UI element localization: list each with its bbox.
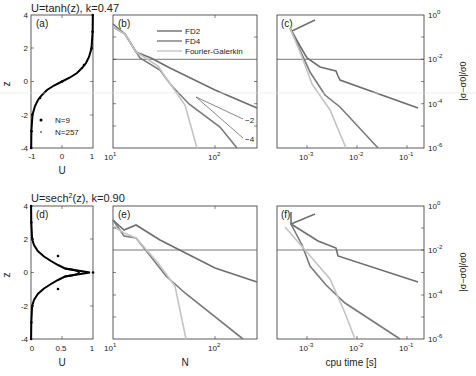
- svg-text:10-4: 10-4: [428, 289, 443, 300]
- panel-a: U=tanh(z), k=0.47 (a) N=9 N=257 4 2 0 -2…: [1, 2, 119, 176]
- line-fd4-f: [291, 224, 400, 339]
- svg-text:10-3: 10-3: [299, 342, 314, 353]
- svg-text:10-2: 10-2: [349, 151, 364, 162]
- svg-text:10-2: 10-2: [349, 342, 364, 353]
- svg-text:-4: -4: [21, 335, 29, 344]
- yticks-f: 100 10-2 10-4 10-6: [428, 200, 443, 344]
- line-fd2-c: [290, 28, 418, 108]
- xticks-f: 10-3 10-2 10-1: [299, 342, 414, 353]
- line-fd2-e: [113, 220, 257, 282]
- panel-label-b: (b): [118, 18, 130, 29]
- axes-f-frame: [277, 206, 424, 339]
- svg-text:-1: -1: [28, 152, 36, 161]
- svg-text:-2: -2: [21, 111, 29, 120]
- axes-c-frame: [277, 15, 424, 148]
- svg-text:10-2: 10-2: [428, 53, 443, 64]
- xticks-c: 10-3 10-2 10-1: [299, 151, 414, 162]
- legend-fd2: FD2: [185, 27, 201, 36]
- svg-text:0: 0: [30, 344, 35, 353]
- svg-text:10-6: 10-6: [428, 142, 443, 153]
- xlabel-a: U: [58, 165, 65, 176]
- ticks-c: [307, 37, 424, 148]
- yticks-a: 4 2 0 -2 -4: [21, 11, 29, 153]
- legend-fd4: FD4: [185, 37, 201, 46]
- slope-label-m2: −2: [245, 116, 255, 125]
- svg-text:10-3: 10-3: [299, 151, 314, 162]
- svg-text:102: 102: [208, 151, 221, 162]
- yticks-c: 100 10-2 10-4 10-6: [428, 9, 443, 153]
- ylabel-f: |σ−σ0|/σ0: [458, 252, 468, 291]
- ylabel-a: z: [1, 82, 12, 87]
- svg-text:-4: -4: [21, 144, 29, 153]
- legend-marker-n257: [40, 131, 42, 133]
- panel-c: (c) 10-3 10-2 10-1 100 10-2 10-4 10-6 |σ…: [277, 9, 468, 162]
- xlabel-e: N: [181, 357, 188, 368]
- panel-label-d: (d): [36, 209, 48, 220]
- xlabel-d: U: [58, 357, 65, 368]
- panel-b: (b) −2 −4 FD2 FD4 Fourier-Galerkin 101 1…: [104, 15, 257, 162]
- ylabel-c: |σ−σ0|/σ0: [458, 61, 468, 100]
- svg-text:10-2: 10-2: [428, 244, 443, 255]
- svg-text:102: 102: [208, 342, 221, 353]
- panel-label-e: (e): [118, 209, 130, 220]
- xticks-e: 101 102: [104, 342, 221, 353]
- xticks-d: 0 0.5 1: [30, 344, 95, 353]
- svg-text:0.5: 0.5: [55, 344, 67, 353]
- svg-text:10-1: 10-1: [399, 151, 414, 162]
- legend-fg: Fourier-Galerkin: [185, 47, 243, 56]
- legend-n257: N=257: [55, 128, 79, 137]
- svg-text:100: 100: [428, 9, 441, 20]
- svg-text:10-6: 10-6: [428, 333, 443, 344]
- svg-text:0: 0: [24, 268, 29, 277]
- slope-line-m2: [196, 97, 243, 119]
- svg-text:101: 101: [104, 342, 117, 353]
- panel-label-c: (c): [281, 18, 293, 29]
- line-fg-e: [113, 226, 186, 339]
- svg-text:101: 101: [104, 151, 117, 162]
- xlabel-f: cpu time [s]: [325, 357, 376, 368]
- line-fd2-c-start: [292, 20, 315, 31]
- xticks-b: 101 102: [104, 151, 221, 162]
- profile-curve-sech2: [31, 206, 90, 339]
- title-bottom: U=sech2(z), k=0.90: [31, 192, 125, 204]
- line-fd2-f-start: [291, 214, 315, 224]
- panel-label-f: (f): [281, 209, 290, 220]
- title-top: U=tanh(z), k=0.47: [31, 2, 119, 14]
- line-fg-f: [285, 227, 355, 339]
- panel-f: (f) 10-3 10-2 10-1 100 10-2 10-4 10-6 cp…: [277, 200, 468, 368]
- svg-text:1: 1: [90, 152, 95, 161]
- yticks-d: 4 2 0 -2 -4: [21, 202, 29, 344]
- svg-text:0: 0: [60, 152, 65, 161]
- svg-text:10-4: 10-4: [428, 98, 443, 109]
- xticks-a: -1 0 1: [28, 152, 94, 161]
- svg-text:4: 4: [24, 11, 29, 20]
- figure: U=tanh(z), k=0.47 (a) N=9 N=257 4 2 0 -2…: [0, 0, 476, 376]
- svg-text:0: 0: [24, 77, 29, 86]
- svg-text:1: 1: [90, 344, 95, 353]
- slope-line-m4: [196, 97, 243, 138]
- svg-text:2: 2: [24, 235, 29, 244]
- ylabel-d: z: [1, 273, 12, 278]
- svg-text:2: 2: [24, 44, 29, 53]
- panel-e: (e) 101 102 N: [104, 206, 257, 368]
- legend-n9: N=9: [55, 116, 70, 125]
- panel-d: U=sech2(z), k=0.90 (d) 4 2 0 -2 -4 0 0.5…: [1, 192, 125, 368]
- svg-text:4: 4: [24, 202, 29, 211]
- legend-marker-n9: [40, 119, 43, 122]
- slope-label-m4: −4: [245, 135, 255, 144]
- svg-text:100: 100: [428, 200, 441, 211]
- line-fd4-c: [290, 28, 378, 148]
- svg-text:-2: -2: [21, 302, 29, 311]
- line-fd4-e: [113, 220, 243, 339]
- panel-label-a: (a): [36, 18, 48, 29]
- line-fd2-f: [291, 212, 418, 282]
- svg-text:10-1: 10-1: [399, 342, 414, 353]
